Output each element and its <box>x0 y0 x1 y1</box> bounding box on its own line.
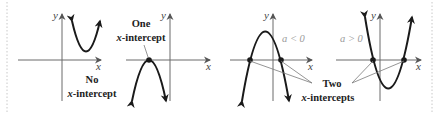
y-axis-label: y <box>263 9 269 21</box>
pointer-line <box>352 61 373 83</box>
parabola-curve <box>132 60 166 101</box>
panel-one-intercept: y x One x-intercept <box>116 9 211 101</box>
x-axis-label: x <box>307 60 313 72</box>
y-axis-label: y <box>370 9 376 21</box>
parabola-intercepts-diagram: y x No x-intercept y x One x-intercept y… <box>0 0 438 114</box>
panel-two-intercepts-a-negative: y x a < 0 <box>230 9 313 101</box>
condition-label: a > 0 <box>340 33 364 44</box>
caption-line1: One <box>132 18 151 29</box>
panel-no-intercept: y x No x-intercept <box>18 9 117 101</box>
pointer-line <box>144 45 148 57</box>
x-axis-label: x <box>205 60 211 72</box>
x-axis-label: x <box>415 60 421 72</box>
caption-rest: -intercepts <box>307 92 355 103</box>
caption-rest: -intercept <box>122 32 166 43</box>
panel-two-intercepts-a-positive: y x a > 0 <box>336 9 421 101</box>
caption-rest: -intercept <box>73 88 117 99</box>
y-axis-label: y <box>52 9 58 21</box>
parabola-curve <box>365 17 412 89</box>
intercept-point-left <box>370 57 376 63</box>
caption-line1: No <box>86 74 99 85</box>
x-axis-label: x <box>95 60 101 72</box>
caption-line2: x-intercepts <box>301 92 355 103</box>
caption-line2: x-intercept <box>67 88 117 99</box>
intercept-point <box>146 57 152 63</box>
parabola-curve <box>72 21 100 52</box>
caption-line1: Two <box>322 78 341 89</box>
caption-line2: x-intercept <box>116 32 166 43</box>
condition-label: a < 0 <box>282 33 306 44</box>
y-axis-label: y <box>160 9 166 21</box>
